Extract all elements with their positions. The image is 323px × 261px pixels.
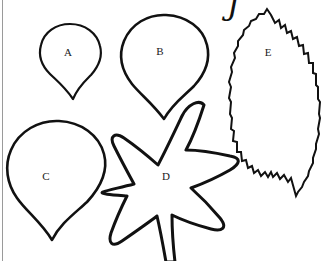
worksheet-canvas: J A B C D E [0, 0, 323, 261]
serrated-leaf-outline-e[interactable] [229, 9, 320, 196]
shape-label-c: C [42, 171, 49, 182]
shape-label-e: E [265, 47, 272, 58]
shape-label-d: D [162, 171, 170, 182]
star-flower-outline-d[interactable] [102, 102, 238, 261]
petal-outline-c[interactable] [7, 121, 105, 240]
shape-label-b: B [156, 46, 163, 57]
shape-label-a: A [64, 47, 72, 58]
petal-outline-a[interactable] [40, 24, 101, 99]
cursive-signature-mark: J [227, 0, 239, 22]
template-shapes-diagram [0, 0, 323, 261]
